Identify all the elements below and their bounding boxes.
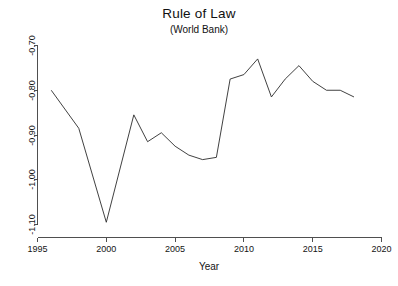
y-tick-label: -0.80 [27, 80, 37, 101]
y-tick-labels: -0.70 -0.80 -0.90 -1.00 -1.10 [27, 35, 37, 235]
x-axis-title: Year [199, 261, 220, 272]
plot-area: -0.70 -0.80 -0.90 -1.00 -1.10 1995 2000 … [0, 0, 398, 286]
x-tick-label: 2010 [234, 244, 254, 254]
x-tick-label: 2005 [165, 244, 185, 254]
x-tick-label: 2015 [303, 244, 323, 254]
y-tick-label: -0.90 [27, 125, 37, 146]
chart-figure: Rule of Law (World Bank) -0.70 -0.80 -0.… [0, 0, 398, 286]
data-series-line [51, 59, 354, 222]
y-tick-label: -0.70 [27, 35, 37, 56]
x-tick-marks [38, 238, 382, 242]
x-tick-label: 2020 [371, 244, 391, 254]
x-tick-label: 1995 [27, 244, 47, 254]
x-tick-label: 2000 [96, 244, 116, 254]
y-tick-label: -1.00 [27, 169, 37, 190]
y-tick-label: -1.10 [27, 214, 37, 235]
x-tick-labels: 1995 2000 2005 2010 2015 2020 [27, 244, 391, 254]
